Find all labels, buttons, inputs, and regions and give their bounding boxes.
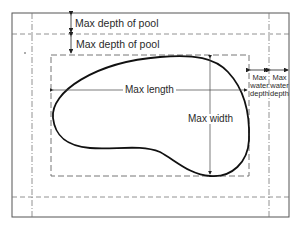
label-max-depth-upper: Max depth of pool: [75, 18, 158, 29]
stray-mark: [24, 52, 26, 54]
label-line: depth: [250, 90, 269, 98]
label-line: depth: [270, 90, 289, 98]
label-max-length: Max length: [123, 85, 176, 95]
label-max-water-depth-left: Max water depth: [250, 74, 269, 98]
label-max-water-depth-right: Max water depth: [270, 74, 289, 98]
label-max-depth-lower: Max depth of pool: [76, 39, 159, 50]
pool-diagram-canvas: [0, 0, 299, 228]
label-max-width: Max width: [186, 114, 235, 124]
